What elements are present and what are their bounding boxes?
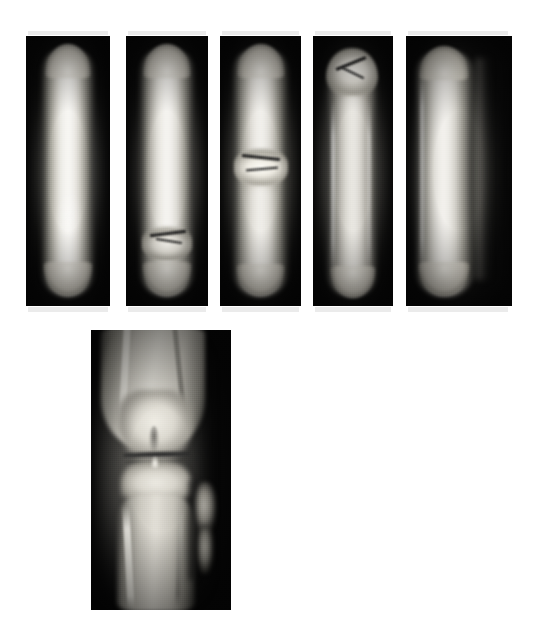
film-strip-bottom-5 [408, 307, 508, 312]
xray-panel-6-knee[interactable] [91, 330, 231, 610]
xray-panel-4[interactable] [313, 36, 393, 306]
film-body-3 [220, 36, 301, 306]
film-strip-top-4 [315, 31, 391, 35]
film-strip-top-1 [28, 31, 108, 35]
film-strip-top-3 [222, 31, 299, 35]
film-strip-bottom-4 [315, 307, 391, 312]
figure-caption [0, 616, 547, 628]
cortex-lateral-4 [331, 100, 335, 278]
xray-panel-5[interactable] [406, 36, 512, 306]
cortex-lateral-5 [420, 70, 424, 276]
film-body-4 [313, 36, 393, 306]
film-strip-top-2 [128, 31, 206, 35]
radiograph-figure [0, 0, 547, 630]
xray-panel-2[interactable] [126, 36, 208, 306]
film-body-1 [26, 36, 110, 306]
bone-medullary-canal-5 [424, 66, 462, 280]
periosteal-stripe-5 [476, 58, 492, 280]
intercondylar-notch [149, 426, 159, 452]
film-strip-bottom-3 [222, 307, 299, 312]
cortex-medial-4 [367, 100, 371, 278]
film-strip-bottom-2 [128, 307, 206, 312]
bone-medullary-canal-1 [50, 62, 84, 284]
bone-medullary-canal-2 [148, 62, 184, 242]
fibula-separation-shadow [189, 480, 197, 580]
bone-medullary-canal-4 [335, 96, 369, 272]
xray-panel-3[interactable] [220, 36, 301, 306]
xray-panel-1[interactable] [26, 36, 110, 306]
tibial-spine [151, 456, 159, 468]
cortical-density-band-1 [56, 186, 82, 246]
film-strip-top-5 [408, 31, 508, 35]
fibula-shaft [197, 526, 213, 574]
film-strip-bottom-1 [28, 307, 108, 312]
film-body-2 [126, 36, 208, 306]
film-body-5 [406, 36, 512, 306]
